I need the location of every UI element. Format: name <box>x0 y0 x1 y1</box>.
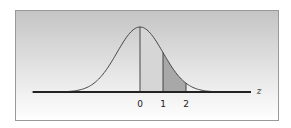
normal-curve-figure: 012z <box>0 0 291 128</box>
x-tick-label: 2 <box>183 99 189 109</box>
x-tick-label: 0 <box>137 99 143 109</box>
x-axis-label: z <box>256 86 262 96</box>
x-tick-label: 1 <box>160 99 166 109</box>
